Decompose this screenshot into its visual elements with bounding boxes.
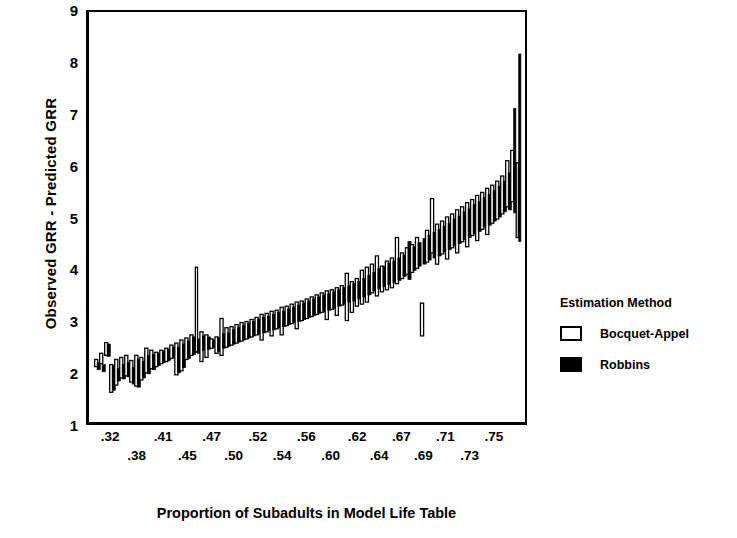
x-axis-tick-label: .69	[414, 449, 433, 463]
x-axis-tick-label: .75	[485, 430, 504, 444]
y-axis-tick-label: 1	[52, 418, 78, 433]
range-bar	[107, 344, 110, 356]
x-axis-tick-label: .73	[460, 449, 479, 463]
legend-item-robbins: Robbins	[560, 357, 732, 372]
x-axis-tick-label: .47	[202, 430, 221, 444]
plot-area	[86, 10, 527, 425]
y-axis-tick-label: 3	[52, 314, 78, 329]
y-axis-tick-label: 4	[52, 262, 78, 277]
x-axis-tick-label: .71	[436, 430, 455, 444]
x-axis-tick-label: .32	[101, 430, 120, 444]
range-bar	[519, 54, 521, 242]
range-bar	[516, 163, 518, 238]
y-axis-tick-label: 9	[52, 3, 78, 18]
x-axis-tick-label: .38	[127, 449, 146, 463]
y-axis-tick-label: 8	[52, 54, 78, 69]
x-axis-tick-label: .54	[273, 449, 292, 463]
x-axis-tick-label: .64	[370, 449, 389, 463]
legend: Estimation Method Bocquet-Appel Robbins	[560, 296, 732, 388]
x-axis-tick-label: .52	[249, 430, 268, 444]
x-axis-tick-label: .41	[154, 430, 173, 444]
y-axis-tick-label: 7	[52, 106, 78, 121]
range-bar	[100, 353, 103, 363]
x-axis-tick-label: .56	[297, 430, 316, 444]
x-axis-tick-label: .50	[224, 449, 243, 463]
legend-item-label: Bocquet-Appel	[600, 327, 689, 341]
x-axis-tick-label: .62	[348, 430, 367, 444]
chart-bars-canvas	[89, 12, 525, 422]
y-axis-tick-labels: 123456789	[52, 10, 78, 425]
range-bar	[418, 243, 421, 267]
legend-item-label: Robbins	[600, 358, 650, 372]
x-axis-tick-label: .45	[178, 449, 197, 463]
legend-swatch-open-icon	[560, 326, 582, 341]
range-bar	[102, 365, 105, 372]
legend-swatch-filled-icon	[560, 357, 582, 372]
y-axis-tick-label: 2	[52, 366, 78, 381]
legend-title: Estimation Method	[560, 296, 732, 310]
y-axis-tick-label: 6	[52, 158, 78, 173]
x-axis-title: Proportion of Subadults in Model Life Ta…	[86, 505, 527, 521]
range-bar	[420, 303, 423, 336]
x-axis-tick-label: .60	[321, 449, 340, 463]
x-axis-tick-label: .67	[392, 430, 411, 444]
range-bar	[514, 108, 516, 213]
x-axis-tick-labels: .32.41.47.52.56.62.67.71.75.38.45.50.54.…	[86, 427, 527, 469]
legend-item-bocquet-appel: Bocquet-Appel	[560, 326, 732, 341]
y-axis-tick-label: 5	[52, 210, 78, 225]
